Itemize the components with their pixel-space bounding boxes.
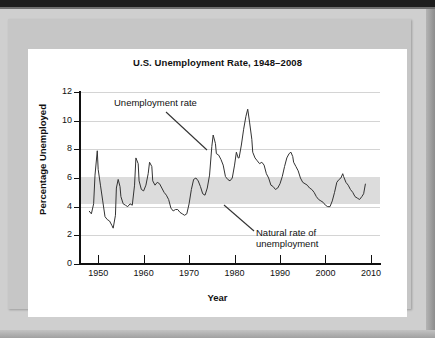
- x-tick-label-2010: 2010: [351, 268, 391, 278]
- x-axis-label: Year: [28, 292, 407, 303]
- x-tick-label-2000: 2000: [305, 268, 345, 278]
- unemployment-rate-chart: U.S. Unemployment Rate, 1948–2008 Percen…: [28, 49, 407, 317]
- plot-area: 024681012 1950196019701980199020002010: [80, 92, 380, 264]
- annotation-natural-rate-line2: unemployment: [256, 238, 318, 249]
- annotation-unemployment-rate: Unemployment rate: [114, 97, 197, 108]
- y-tick-label-8: 8: [48, 143, 72, 153]
- figure-card: U.S. Unemployment Rate, 1948–2008 Percen…: [28, 49, 407, 317]
- y-tick-label-4: 4: [48, 201, 72, 211]
- y-tick-label-0: 0: [48, 258, 72, 268]
- page-bottom-shadow: [0, 330, 435, 338]
- y-axis-label: Percentage Unemployed: [37, 90, 48, 230]
- y-tick-label-6: 6: [48, 172, 72, 182]
- y-tick-label-12: 12: [48, 86, 72, 96]
- y-tick-label-2: 2: [48, 229, 72, 239]
- x-tick-label-1980: 1980: [215, 268, 255, 278]
- page-right-shadow: [426, 9, 435, 338]
- chart-title: U.S. Unemployment Rate, 1948–2008: [28, 57, 407, 68]
- series-line-unemployment-rate: [89, 109, 365, 228]
- y-tick-label-10: 10: [48, 115, 72, 125]
- figure-root: U.S. Unemployment Rate, 1948–2008 Percen…: [0, 0, 435, 338]
- figure-frame: U.S. Unemployment Rate, 1948–2008 Percen…: [8, 19, 411, 309]
- x-tick-label-1950: 1950: [78, 268, 118, 278]
- annotation-natural-rate: Natural rate of unemployment: [256, 227, 318, 249]
- annotation-natural-rate-line1: Natural rate of: [256, 227, 318, 238]
- x-tick-label-1990: 1990: [260, 268, 300, 278]
- x-tick-label-1960: 1960: [124, 268, 164, 278]
- x-tick-label-1970: 1970: [169, 268, 209, 278]
- unemployment-rate-series: [80, 92, 380, 264]
